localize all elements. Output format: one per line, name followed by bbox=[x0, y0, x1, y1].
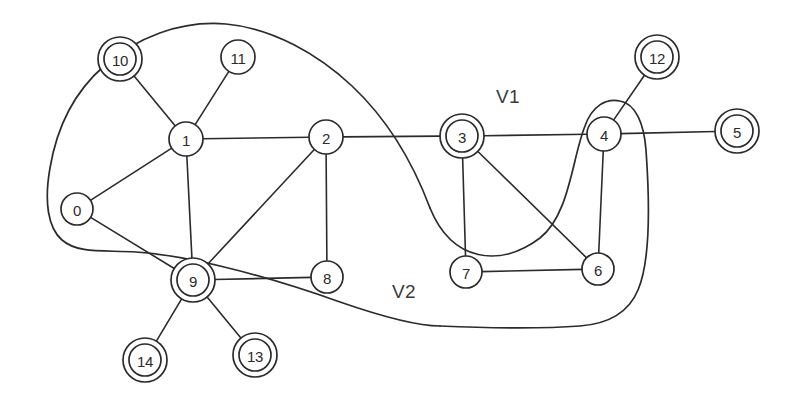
graph-edge-7-6 bbox=[482, 269, 583, 271]
graph-node-14[interactable]: 14 bbox=[123, 338, 167, 382]
graph-edge-2-8 bbox=[326, 154, 327, 262]
graph-node-4[interactable]: 4 bbox=[587, 117, 621, 151]
graph-edge-2-9 bbox=[208, 149, 315, 264]
node-circle-4 bbox=[587, 117, 621, 151]
graph-svg: 01234567891011121314 V1 V2 bbox=[0, 0, 793, 408]
graph-node-7[interactable]: 7 bbox=[450, 256, 482, 288]
graph-node-10[interactable]: 10 bbox=[98, 37, 142, 81]
graph-edge-0-9 bbox=[90, 217, 174, 269]
node-circle-10 bbox=[104, 43, 136, 75]
node-circle-9 bbox=[177, 264, 209, 296]
region-label-v2: V2 bbox=[392, 281, 416, 302]
node-circle-11 bbox=[221, 40, 255, 74]
diagram-canvas: 01234567891011121314 V1 V2 bbox=[0, 0, 793, 408]
graph-edge-9-13 bbox=[207, 297, 242, 339]
graph-edge-1-0 bbox=[90, 148, 172, 201]
graph-edge-10-1 bbox=[134, 76, 176, 127]
graph-node-1[interactable]: 1 bbox=[169, 122, 203, 156]
node-circle-2 bbox=[309, 120, 343, 154]
graph-node-11[interactable]: 11 bbox=[221, 40, 255, 74]
nodes-group: 01234567891011121314 bbox=[61, 35, 759, 382]
node-circle-7 bbox=[450, 256, 482, 288]
graph-node-6[interactable]: 6 bbox=[582, 253, 614, 285]
graph-node-3[interactable]: 3 bbox=[440, 114, 484, 158]
node-circle-6 bbox=[582, 253, 614, 285]
graph-edge-11-1 bbox=[195, 71, 229, 125]
graph-node-12[interactable]: 12 bbox=[635, 35, 679, 79]
node-circle-1 bbox=[169, 122, 203, 156]
graph-edge-4-12 bbox=[613, 75, 644, 121]
graph-node-5[interactable]: 5 bbox=[715, 109, 759, 153]
graph-node-8[interactable]: 8 bbox=[311, 261, 343, 293]
graph-edge-4-6 bbox=[599, 150, 604, 253]
node-circle-5 bbox=[721, 115, 753, 147]
graph-node-13[interactable]: 13 bbox=[233, 333, 277, 377]
graph-edge-1-9 bbox=[187, 155, 192, 258]
node-circle-14 bbox=[129, 344, 161, 376]
node-circle-3 bbox=[446, 120, 478, 152]
graph-edge-3-7 bbox=[463, 157, 466, 256]
graph-edge-3-6 bbox=[477, 151, 587, 258]
graph-edge-9-14 bbox=[156, 298, 182, 341]
graph-node-2[interactable]: 2 bbox=[309, 120, 343, 154]
graph-edge-8-9 bbox=[214, 277, 311, 279]
graph-node-0[interactable]: 0 bbox=[61, 193, 93, 225]
graph-edge-1-2 bbox=[203, 137, 310, 139]
graph-edge-4-5 bbox=[621, 131, 716, 133]
graph-edge-3-4 bbox=[484, 134, 588, 135]
graph-node-9[interactable]: 9 bbox=[171, 258, 215, 302]
node-circle-8 bbox=[311, 261, 343, 293]
graph-edge-2-3 bbox=[343, 136, 441, 137]
region-label-v1: V1 bbox=[496, 86, 520, 107]
node-circle-13 bbox=[239, 339, 271, 371]
node-circle-12 bbox=[641, 41, 673, 73]
node-circle-0 bbox=[61, 193, 93, 225]
